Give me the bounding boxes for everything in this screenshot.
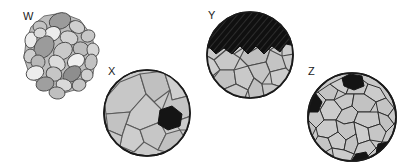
- specimen-w-diagram: [0, 0, 110, 110]
- opaque-hatched-band-y: [204, 12, 295, 54]
- specimen-z-label: Z: [308, 66, 315, 77]
- specimen-y: Y: [200, 4, 298, 104]
- specimen-x: X: [100, 60, 196, 158]
- opaque-mineral-z-bottom-right: [376, 142, 394, 158]
- specimen-w-label: W: [23, 11, 34, 22]
- specimen-z-diagram: [300, 62, 400, 166]
- figure-root: W: [0, 0, 403, 168]
- specimen-w: W: [0, 0, 110, 110]
- specimen-z: Z: [300, 62, 400, 166]
- specimen-x-label: X: [108, 66, 116, 77]
- specimen-y-label: Y: [208, 10, 216, 21]
